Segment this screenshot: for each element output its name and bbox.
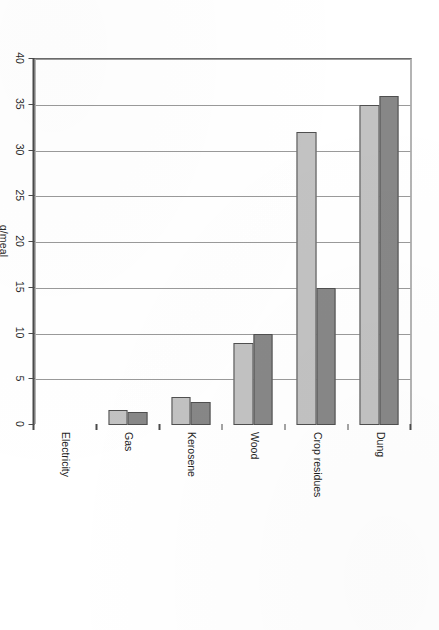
value-tick-40 bbox=[28, 58, 34, 59]
plot-inner bbox=[35, 59, 410, 424]
category-label-gas: Gas bbox=[122, 432, 134, 451]
bar-dung-s2 bbox=[359, 105, 379, 425]
bar-wood-s2 bbox=[233, 343, 253, 425]
bar-gas-s2 bbox=[108, 410, 128, 425]
value-tick-label-5: 5 bbox=[13, 358, 25, 398]
bar-gas-s1 bbox=[127, 412, 147, 425]
value-tick-label-20: 20 bbox=[13, 221, 25, 261]
bar-kerosene-s2 bbox=[171, 397, 191, 425]
value-axis-title: g/meal bbox=[0, 58, 9, 424]
gridline-20 bbox=[35, 242, 410, 243]
value-tick-15 bbox=[28, 287, 34, 288]
plot-area bbox=[34, 58, 411, 424]
value-tick-label-35: 35 bbox=[13, 84, 25, 124]
category-label-crop-residues: Crop residues bbox=[311, 432, 323, 497]
gridline-30 bbox=[35, 151, 410, 152]
scanned-page: 0510152025303540 g/meal DungCrop residue… bbox=[0, 0, 439, 630]
value-tick-label-30: 30 bbox=[13, 130, 25, 170]
category-label-electricity: Electricity bbox=[59, 432, 71, 477]
category-tick-4 bbox=[158, 424, 160, 430]
value-tick-label-10: 10 bbox=[13, 313, 25, 353]
value-tick-label-0: 0 bbox=[13, 404, 25, 444]
category-label-wood: Wood bbox=[248, 432, 260, 459]
value-tick-label-40: 40 bbox=[13, 38, 25, 78]
value-tick-25 bbox=[28, 195, 34, 196]
category-tick-end bbox=[33, 424, 35, 430]
category-label-dung: Dung bbox=[374, 432, 386, 457]
category-tick-2 bbox=[284, 424, 286, 430]
value-tick-20 bbox=[28, 241, 34, 242]
category-tick-1 bbox=[347, 424, 349, 430]
value-tick-label-25: 25 bbox=[13, 175, 25, 215]
category-label-kerosene: Kerosene bbox=[185, 432, 197, 477]
value-tick-30 bbox=[28, 150, 34, 151]
bar-kerosene-s1 bbox=[190, 402, 210, 425]
gridline-10 bbox=[35, 334, 410, 335]
gridline-25 bbox=[35, 196, 410, 197]
bar-crop-residues-s1 bbox=[316, 288, 336, 425]
category-tick-5 bbox=[95, 424, 97, 430]
value-tick-5 bbox=[28, 378, 34, 379]
value-tick-10 bbox=[28, 333, 34, 334]
gridline-40 bbox=[35, 59, 410, 60]
gridline-5 bbox=[35, 379, 410, 380]
category-tick-3 bbox=[221, 424, 223, 430]
gridline-35 bbox=[35, 105, 410, 106]
gridline-15 bbox=[35, 288, 410, 289]
rotated-figure: 0510152025303540 g/meal DungCrop residue… bbox=[0, 0, 439, 630]
bar-wood-s1 bbox=[253, 334, 273, 426]
category-tick-0 bbox=[410, 424, 412, 430]
value-tick-35 bbox=[28, 104, 34, 105]
bar-crop-residues-s2 bbox=[296, 132, 316, 425]
bar-dung-s1 bbox=[379, 96, 399, 425]
value-tick-label-15: 15 bbox=[13, 267, 25, 307]
bar-chart-figure: 0510152025303540 g/meal DungCrop residue… bbox=[0, 0, 439, 630]
